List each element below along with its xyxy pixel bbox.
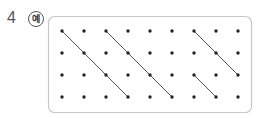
grid-dot bbox=[126, 51, 129, 54]
grid-dot bbox=[82, 51, 85, 54]
grid-dot bbox=[192, 73, 195, 76]
grid-dot bbox=[126, 95, 129, 98]
grid-dot bbox=[104, 95, 107, 98]
grid-dot bbox=[104, 29, 107, 32]
grid-dot bbox=[236, 95, 239, 98]
grid-dot bbox=[214, 73, 217, 76]
grid-dot bbox=[170, 73, 173, 76]
grid-dot bbox=[236, 29, 239, 32]
grid-dot bbox=[214, 51, 217, 54]
diagonal-segment bbox=[194, 75, 216, 97]
grid-dot bbox=[60, 73, 63, 76]
dot-grid bbox=[0, 0, 261, 118]
grid-dot bbox=[148, 73, 151, 76]
grid-dot bbox=[82, 73, 85, 76]
grid-dot bbox=[148, 51, 151, 54]
grid-dot bbox=[60, 95, 63, 98]
grid-dot bbox=[214, 29, 217, 32]
grid-dot bbox=[148, 29, 151, 32]
grid-dot bbox=[104, 51, 107, 54]
grid-dot bbox=[170, 29, 173, 32]
grid-dot bbox=[170, 95, 173, 98]
diagonal-segment bbox=[62, 31, 128, 97]
grid-dot bbox=[126, 29, 129, 32]
grid-dot bbox=[60, 29, 63, 32]
grid-dot bbox=[60, 51, 63, 54]
grid-dot bbox=[192, 29, 195, 32]
grid-dot bbox=[82, 95, 85, 98]
grid-dot bbox=[214, 95, 217, 98]
grid-dot bbox=[104, 73, 107, 76]
grid-dot bbox=[236, 73, 239, 76]
grid-dot bbox=[192, 95, 195, 98]
grid-dot bbox=[126, 73, 129, 76]
grid-dot bbox=[236, 51, 239, 54]
diagonal-segment bbox=[106, 31, 172, 97]
grid-dot bbox=[170, 51, 173, 54]
grid-dot bbox=[82, 29, 85, 32]
grid-dot bbox=[148, 95, 151, 98]
grid-dot bbox=[192, 51, 195, 54]
